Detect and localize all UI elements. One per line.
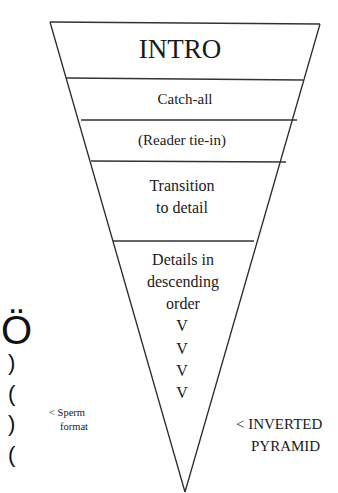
label-sperm-format-line1: < Sperm [49,407,85,418]
label-sperm-format-line2: format [60,421,88,432]
section-intro: INTRO [139,34,222,64]
section-details-line2: descending [147,273,219,291]
sperm-tail-segment-4: ( [8,442,16,467]
down-arrow-v-1: V [176,317,188,334]
section-transition-line2: to detail [156,199,209,216]
pyramid-top-edge [50,22,320,24]
inverted-pyramid-diagram: INTRO Catch-all (Reader tie-in) Transiti… [0,0,338,493]
section-details-line1: Details in [152,251,214,268]
label-inverted-pyramid-line1: < INVERTED [236,416,322,432]
divider-intro [66,78,303,80]
sperm-tail-segment-3: ) [8,411,15,436]
section-transition-line1: Transition [149,177,214,194]
divider-reader-tie-in [91,161,286,162]
sperm-head-icon: Ö [1,308,32,352]
label-inverted-pyramid-line2: PYRAMID [251,438,320,454]
section-reader-tie-in: (Reader tie-in) [138,132,226,149]
section-catch-all: Catch-all [158,91,213,107]
down-arrow-v-4: V [176,384,188,401]
section-details-line3: order [166,295,200,312]
sperm-tail-segment-1: ) [8,350,15,375]
down-arrow-v-3: V [176,362,188,379]
sperm-tail-segment-2: ( [8,381,16,406]
down-arrow-v-2: V [176,340,188,357]
